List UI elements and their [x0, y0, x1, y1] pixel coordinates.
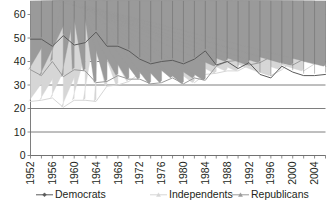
y-tick-label-10: 10 — [14, 126, 26, 138]
x-tick-label-1956: 1956 — [46, 161, 58, 185]
y-tick-label-50: 50 — [14, 32, 26, 44]
party-identification-line-chart: 0102030405060 19521956196019641968197219… — [0, 0, 332, 213]
y-tick-label-60: 60 — [14, 8, 26, 20]
x-tick-label-2004: 2004 — [308, 161, 320, 185]
y-tick-label-40: 40 — [14, 55, 26, 67]
y-tick-label-20: 20 — [14, 102, 26, 114]
x-tick-label-1992: 1992 — [243, 161, 255, 185]
legend-label: Democrats — [55, 188, 106, 200]
x-tick-label-1980: 1980 — [177, 161, 189, 185]
x-tick-label-1952: 1952 — [24, 161, 36, 185]
legend-label: Independents — [169, 188, 233, 200]
y-tick-label-30: 30 — [14, 79, 26, 91]
chart-canvas: 0102030405060 19521956196019641968197219… — [0, 0, 332, 213]
x-tick-label-2000: 2000 — [286, 161, 298, 185]
y-tick-label-0: 0 — [20, 149, 26, 161]
x-tick-label-1968: 1968 — [112, 161, 124, 185]
x-tick-label-1964: 1964 — [90, 161, 102, 185]
chart-legend: DemocratsIndependentsRepublicans — [36, 188, 309, 200]
x-tick-label-1960: 1960 — [68, 161, 80, 185]
x-tick-label-1996: 1996 — [264, 161, 276, 185]
x-tick-label-1972: 1972 — [133, 161, 145, 185]
x-tick-label-1976: 1976 — [155, 161, 167, 185]
x-tick-label-1988: 1988 — [221, 161, 233, 185]
x-tick-label-1984: 1984 — [199, 161, 211, 185]
legend-label: Republicans — [251, 188, 309, 200]
